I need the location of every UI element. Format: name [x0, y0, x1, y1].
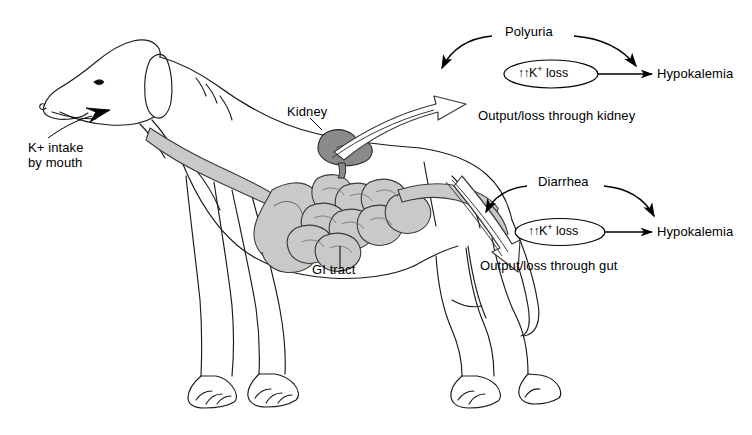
dog-eye [94, 80, 104, 85]
kidney-leader-line [310, 118, 322, 130]
dog-paw-front-near [188, 376, 236, 408]
k-intake-arrow [48, 108, 110, 138]
dog-ear [145, 54, 172, 118]
k-loss-gut-suffix: loss [553, 224, 579, 238]
dog-neck-crease-2 [206, 84, 217, 103]
hypokalemia-gut-label: Hypokalemia [657, 224, 733, 239]
k-loss-gut-text: ↑↑K+ loss [528, 224, 578, 238]
dog-paw-hind-near [451, 376, 501, 408]
diagram-canvas [0, 0, 752, 435]
dog-paw-hind-near-toes [458, 391, 485, 404]
output-kidney-label: Output/loss through kidney [478, 108, 635, 123]
dog-hind-leg-near [436, 256, 462, 376]
polyuria-label: Polyuria [505, 24, 553, 39]
k-loss-renal-arrows: ↑↑ [518, 66, 529, 80]
polyuria-left-arc [442, 36, 492, 68]
k-loss-renal-suffix: loss [543, 66, 569, 80]
dog-paw-front-far-toes [255, 389, 292, 403]
esophagus [146, 128, 276, 208]
kidney-output-arrow [334, 96, 466, 160]
kidney-hilum [338, 163, 346, 178]
k-loss-renal-text: ↑↑K+ loss [518, 66, 568, 80]
k-loss-gut-arrows: ↑↑ [528, 224, 539, 238]
dog-neck-crease [196, 78, 206, 96]
diarrhea-right-arc [604, 186, 654, 216]
hypokalemia-renal-label: Hypokalemia [657, 66, 733, 81]
dog-front-leg-far [232, 190, 259, 374]
diarrhea-label: Diarrhea [538, 174, 589, 189]
k-intake-line2: by mouth [28, 155, 82, 170]
dog-shoulder-crease [220, 96, 232, 120]
dog-paw-front-near-toes [196, 391, 231, 404]
dog-paw-hind-far-toes [525, 389, 540, 397]
kidney-label: Kidney [287, 104, 327, 119]
dog-paw-front-far [248, 374, 299, 407]
polyuria-right-arc [574, 36, 636, 66]
dog-front-leg-near [186, 176, 202, 376]
potassium-balance-diagram: K+ intake by mouth Kidney GI tract Outpu… [0, 0, 752, 435]
k-intake-label: K+ intake by mouth [28, 140, 118, 170]
k-intake-line1: K+ intake [28, 140, 83, 155]
gi-tract-label: GI tract [312, 262, 355, 277]
dog-front-leg-near-back [214, 182, 234, 376]
dog-head-outline [44, 40, 160, 106]
dog-muzzle [43, 106, 88, 119]
output-gut-label: Output/loss through gut [480, 258, 617, 273]
